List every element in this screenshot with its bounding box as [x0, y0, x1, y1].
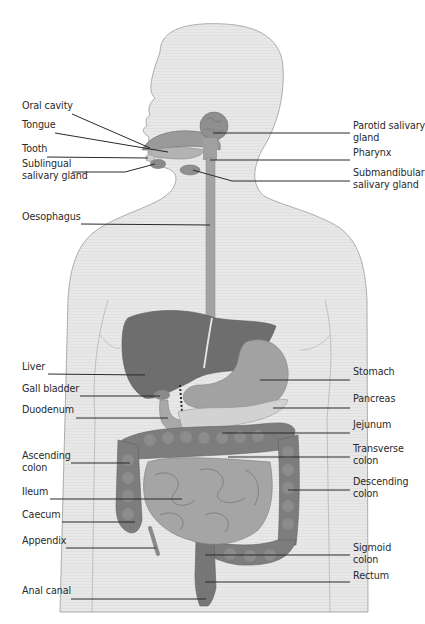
label-line-2: colon — [353, 455, 404, 467]
label-line-2: gland — [353, 132, 425, 144]
label-line-1: Oesophagus — [22, 211, 81, 223]
label-line-1: Oral cavity — [22, 100, 73, 112]
label-line-2: salivary gland — [353, 179, 425, 191]
label-liver: Liver — [22, 361, 45, 373]
label-line-1: Stomach — [353, 366, 395, 378]
label-transverse-colon: Transverse colon — [353, 443, 404, 467]
pharynx — [203, 138, 217, 160]
label-line-1: Descending — [353, 476, 408, 488]
label-oesophagus: Oesophagus — [22, 211, 81, 223]
label-pharynx: Pharynx — [353, 147, 391, 159]
label-appendix: Appendix — [22, 535, 66, 547]
label-rectum: Rectum — [353, 570, 389, 582]
label-line-1: Caecum — [22, 509, 61, 521]
label-pancreas: Pancreas — [353, 393, 395, 405]
label-line-2: colon — [22, 462, 71, 474]
sublingual-gland — [150, 159, 166, 169]
label-line-1: Sublingual — [22, 158, 88, 170]
label-line-1: Liver — [22, 361, 45, 373]
label-line-1: Transverse — [353, 443, 404, 455]
label-line-1: Appendix — [22, 535, 66, 547]
label-jejunum: Jejunum — [353, 419, 391, 431]
label-sigmoid-colon: Sigmoid colon — [353, 542, 391, 566]
label-anal-canal: Anal canal — [22, 585, 71, 597]
label-line-1: Anal canal — [22, 585, 71, 597]
label-duodenum: Duodenum — [22, 404, 74, 416]
gall-bladder — [154, 390, 170, 400]
label-tongue: Tongue — [22, 119, 56, 131]
rectum — [195, 540, 216, 606]
label-gall-bladder: Gall bladder — [22, 383, 79, 395]
label-parotid-salivary-gland: Parotid salivary gland — [353, 120, 425, 144]
label-line-1: Gall bladder — [22, 383, 79, 395]
label-caecum: Caecum — [22, 509, 61, 521]
label-line-1: Rectum — [353, 570, 389, 582]
label-ascending-colon: Ascending colon — [22, 450, 71, 474]
label-line-1: Ileum — [22, 486, 48, 498]
label-ileum: Ileum — [22, 486, 48, 498]
label-tooth: Tooth — [22, 143, 47, 155]
label-line-2: colon — [353, 554, 391, 566]
label-submandibular-salivary-gland: Submandibular salivary gland — [353, 167, 425, 191]
submandibular-gland — [180, 165, 200, 175]
label-descending-colon: Descending colon — [353, 476, 408, 500]
label-line-1: Ascending — [22, 450, 71, 462]
label-line-2: salivary gland — [22, 170, 88, 182]
label-line-1: Sigmoid — [353, 542, 391, 554]
label-line-2: colon — [353, 488, 408, 500]
label-line-1: Tooth — [22, 143, 47, 155]
label-line-1: Tongue — [22, 119, 56, 131]
label-line-1: Submandibular — [353, 167, 425, 179]
label-sublingual-salivary-gland: Sublingual salivary gland — [22, 158, 88, 182]
label-oral-cavity: Oral cavity — [22, 100, 73, 112]
parotid-gland — [200, 112, 228, 140]
label-line-1: Duodenum — [22, 404, 74, 416]
label-stomach: Stomach — [353, 366, 395, 378]
label-line-1: Pancreas — [353, 393, 395, 405]
label-line-1: Jejunum — [353, 419, 391, 431]
oesophagus — [206, 158, 215, 320]
label-line-1: Parotid salivary — [353, 120, 425, 132]
label-line-1: Pharynx — [353, 147, 391, 159]
